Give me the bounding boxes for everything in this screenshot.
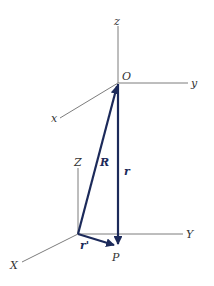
- vector-r-prime-label: r': [80, 239, 89, 252]
- vector-r-label: r: [124, 165, 131, 178]
- vector-R: [78, 86, 117, 234]
- origin-o-label: O: [122, 70, 131, 83]
- X-axis-label: X: [9, 259, 19, 272]
- x-axis-label: x: [51, 112, 58, 125]
- z-axis-label: z: [113, 15, 120, 28]
- vectors: R r r' P: [78, 84, 131, 264]
- point-p-label: P: [111, 251, 120, 264]
- Y-axis-label: Y: [186, 228, 195, 241]
- vector-R-label: R: [99, 156, 109, 169]
- X-axis: [22, 234, 78, 262]
- lower-frame-axes: Z Y X: [9, 156, 195, 272]
- upper-frame-axes: z y x O: [51, 15, 198, 125]
- Z-axis-label: Z: [73, 156, 82, 169]
- y-axis-label: y: [190, 77, 198, 90]
- vector-diagram: z y x O Z Y X R r r' P: [0, 0, 214, 286]
